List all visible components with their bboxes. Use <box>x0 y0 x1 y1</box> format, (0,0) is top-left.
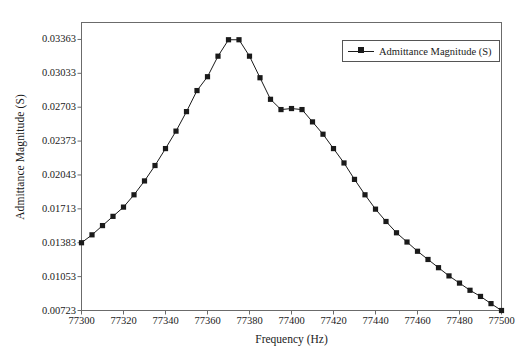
data-point-marker <box>236 37 241 42</box>
data-point-marker <box>257 75 262 80</box>
data-point-marker <box>446 273 451 278</box>
data-point-marker <box>404 239 409 244</box>
data-point-marker <box>362 192 367 197</box>
data-point-marker <box>457 280 462 285</box>
data-point-marker <box>415 249 420 254</box>
data-point-marker <box>310 119 315 124</box>
data-point-marker <box>142 178 147 183</box>
data-point-marker <box>383 219 388 224</box>
data-point-marker <box>100 223 105 228</box>
data-point-marker <box>152 163 157 168</box>
data-point-marker <box>478 294 483 299</box>
data-point-marker <box>131 192 136 197</box>
data-point-marker <box>184 109 189 114</box>
data-point-marker <box>467 288 472 293</box>
data-point-marker <box>278 107 283 112</box>
data-point-marker <box>341 160 346 165</box>
data-point-marker <box>215 54 220 59</box>
data-point-marker <box>299 107 304 112</box>
data-point-marker <box>373 207 378 212</box>
data-point-marker <box>352 177 357 182</box>
chart-figure: Admittance Magnitude (S) Frequency (Hz) … <box>0 0 530 360</box>
data-point-marker <box>289 106 294 111</box>
data-point-marker <box>331 146 336 151</box>
data-point-marker <box>488 301 493 306</box>
data-point-marker <box>205 74 210 79</box>
data-point-marker <box>121 205 126 210</box>
data-point-marker <box>499 308 504 313</box>
data-point-marker <box>110 214 115 219</box>
legend-marker-icon <box>348 45 374 57</box>
data-point-marker <box>425 257 430 262</box>
data-point-marker <box>163 146 168 151</box>
data-point-marker <box>173 129 178 134</box>
data-point-marker <box>247 54 252 59</box>
data-point-marker <box>89 232 94 237</box>
legend: Admittance Magnitude (S) <box>342 40 500 62</box>
data-point-marker <box>394 230 399 235</box>
data-point-marker <box>226 37 231 42</box>
data-point-marker <box>79 240 84 245</box>
data-point-marker <box>268 97 273 102</box>
data-point-marker <box>436 265 441 270</box>
legend-label: Admittance Magnitude (S) <box>379 46 492 57</box>
data-point-marker <box>194 88 199 93</box>
data-point-marker <box>320 132 325 137</box>
